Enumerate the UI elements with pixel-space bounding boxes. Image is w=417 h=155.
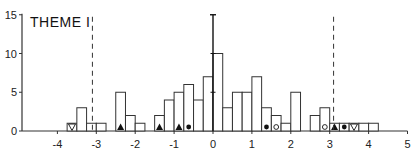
histogram-bar [359,123,369,131]
x-tick-label: -1 [169,138,179,150]
x-axis: -4-3-2-1012345 [22,131,411,150]
y-tick-label: 15 [5,9,17,21]
histogram-chart: 051015 -4-3-2-1012345 THEME I [0,0,417,155]
chart-title: THEME I [30,14,90,30]
y-tick-label: 0 [11,125,17,137]
x-tick-label: -2 [130,138,140,150]
histogram-bar [164,100,174,131]
histogram-bar [291,92,301,131]
y-tick-label: 5 [11,86,17,98]
histogram-bar [310,116,320,132]
open-circle-icon [274,125,279,130]
histogram-bar [135,123,145,131]
histogram-bar [242,92,252,131]
x-tick-label: 4 [366,138,372,150]
histogram-bar [184,85,194,132]
histogram-bar [369,123,379,131]
histogram-bar [232,92,242,131]
x-tick-label: 1 [249,138,255,150]
y-axis: 051015 [5,9,22,137]
filled-circle-icon [264,125,269,130]
histogram-bar [281,123,291,131]
histogram-bars [67,54,378,132]
histogram-bar [77,108,87,131]
x-tick-label: -3 [91,138,101,150]
x-tick-label: 2 [288,138,294,150]
histogram-bar [125,116,135,132]
x-tick-label: -4 [53,138,63,150]
open-circle-icon [322,125,327,130]
histogram-bar [96,123,106,131]
histogram-bar [223,108,233,131]
x-tick-label: 3 [327,138,333,150]
histogram-bar [252,77,262,131]
filled-circle-icon [342,125,347,130]
x-tick-label: 0 [210,138,216,150]
histogram-bar [194,100,204,131]
y-tick-label: 10 [5,48,17,60]
histogram-bar [203,77,213,131]
x-tick-label: 5 [404,138,410,150]
histogram-bar [87,123,97,131]
filled-circle-icon [186,125,191,130]
